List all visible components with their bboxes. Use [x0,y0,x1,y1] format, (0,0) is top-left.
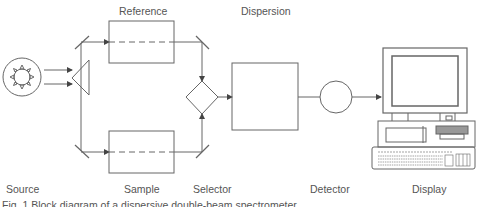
label-reference: Reference [119,5,167,17]
spectrometer-diagram [0,0,484,207]
label-detector: Detector [310,183,350,195]
computer-display-icon [372,48,475,169]
dispersion-box [232,63,298,130]
figure-caption: Fig. 1 Block diagram of a dispersive dou… [2,199,297,207]
label-dispersion: Dispersion [241,5,291,17]
label-selector: Selector [193,183,232,195]
source-lamp-icon [3,58,41,96]
label-sample: Sample [124,183,160,195]
label-display: Display [412,183,446,195]
label-source: Source [6,183,39,195]
selector-icon [186,81,218,114]
detector-icon [320,81,352,113]
